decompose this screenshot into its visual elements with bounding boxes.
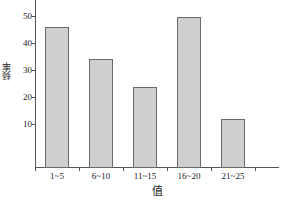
y-tick-label-40: 40 bbox=[12, 39, 32, 48]
x-tick-label-1-5: 1~5 bbox=[50, 170, 64, 182]
x-tick-label-11-15: 11~15 bbox=[134, 170, 157, 182]
x-tick-label-16-20: 16~20 bbox=[178, 170, 201, 182]
y-axis-tick-labels: 50 40 30 20 10 bbox=[12, 0, 32, 170]
y-tick-label-50: 50 bbox=[12, 12, 32, 21]
bars-layer bbox=[35, 0, 279, 168]
x-tick-label-6-10: 6~10 bbox=[92, 170, 110, 182]
x-tick-label-21-25: 21~25 bbox=[222, 170, 245, 182]
bar-11-15 bbox=[133, 87, 157, 168]
x-axis-tick-labels: 1~5 6~10 11~15 16~20 21~25 bbox=[35, 170, 279, 184]
plot-area bbox=[35, 0, 279, 168]
bar-16-20 bbox=[177, 17, 201, 169]
bar-21-25 bbox=[221, 119, 245, 169]
bar-1-5 bbox=[45, 27, 69, 168]
x-axis-title: 值 bbox=[35, 185, 279, 198]
bar-6-10 bbox=[89, 59, 113, 169]
y-tick-label-30: 30 bbox=[12, 66, 32, 75]
y-tick-label-20: 20 bbox=[12, 93, 32, 102]
y-tick-label-10: 10 bbox=[12, 120, 32, 129]
histogram-chart: 频率 50 40 30 20 10 1~5 6~10 1 bbox=[0, 0, 285, 206]
